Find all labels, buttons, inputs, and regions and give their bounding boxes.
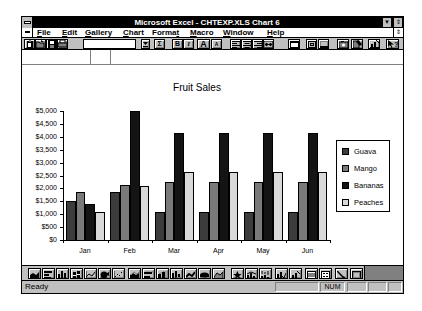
menu-edit[interactable]: Edit [62,28,77,37]
column-chart-button[interactable] [56,268,69,279]
radar-chart-button[interactable] [231,268,244,279]
print-button[interactable] [57,39,68,49]
menu-file[interactable]: File [37,28,51,37]
bar-mango-mar[interactable] [165,182,175,240]
chartwizard-button[interactable] [368,39,380,49]
line-3d-chart-button[interactable] [184,268,197,279]
paste-formats-button[interactable] [351,39,363,49]
chart-area[interactable]: Fruit Sales $0$500$1,000$1,500$2,000$2,5… [22,65,403,265]
center-across-button[interactable] [263,39,274,49]
legend[interactable]: GuavaMangoBananasPeaches [336,140,390,212]
pie-3d-chart-button[interactable] [198,268,211,279]
bar-peaches-may[interactable] [273,172,283,240]
stacked-column-chart-button[interactable] [70,268,83,279]
bar-bananas-feb[interactable] [130,111,140,240]
bar-mango-may[interactable] [254,182,264,240]
bar-peaches-jan[interactable] [95,212,105,240]
bar-bananas-mar[interactable] [174,133,184,240]
bar-bananas-jan[interactable] [85,204,95,240]
autoformat-button[interactable] [288,39,300,49]
bar-mango-jun[interactable] [298,182,308,240]
align-center-button[interactable] [241,39,252,49]
bottom-border-icon [320,41,328,48]
line-chart-button[interactable] [84,268,97,279]
paste-button[interactable] [24,39,35,49]
bar-peaches-mar[interactable] [184,172,194,240]
name-box[interactable] [22,50,90,64]
autosum-button[interactable]: Σ [154,39,165,49]
title-bar[interactable]: Microsoft Excel - CHTEXP.XLS Chart 6 ▼ ⇕ [22,17,403,28]
formula-bar [22,50,403,65]
bold-button[interactable]: B [172,39,183,49]
style-combo-input[interactable] [83,39,136,49]
volume-hlc-combo-button[interactable] [259,268,272,279]
minimize-button[interactable]: ▼ [382,17,392,28]
menu-window[interactable]: Window [223,28,254,37]
decrease-font-button[interactable]: A [211,39,222,49]
bar-bananas-may[interactable] [263,133,273,240]
bar-peaches-jun[interactable] [318,172,328,240]
save-button[interactable] [46,39,57,49]
arrow-button[interactable] [335,268,348,279]
pie-chart-button[interactable] [98,268,111,279]
increase-font-button[interactable]: A [197,39,210,49]
surface-3d-chart-button[interactable] [212,268,225,279]
system-menu-button[interactable] [22,17,33,28]
formula-input[interactable] [112,50,402,64]
legend-item-guava[interactable]: Guava [342,147,390,156]
column-3d-chart-button[interactable] [156,268,169,279]
bar-guava-mar[interactable] [155,212,165,240]
open-button[interactable] [35,39,46,49]
menu-gallery[interactable]: Gallery [85,28,112,37]
legend-label: Mango [354,164,377,173]
plot-area[interactable] [63,111,330,240]
bar-mango-feb[interactable] [120,185,130,240]
style-dropdown-button[interactable] [141,39,150,49]
bar-mango-jan[interactable] [76,192,86,240]
text-box-button[interactable] [350,268,363,279]
legend-item-mango[interactable]: Mango [342,164,390,173]
bar-guava-jan[interactable] [66,201,76,240]
bar-3d-chart-button[interactable] [142,268,155,279]
align-right-button[interactable] [252,39,263,49]
document-restore-button[interactable]: ⇕ [393,28,403,37]
area-chart-button[interactable] [28,268,41,279]
document-menu-icon [25,31,30,33]
menu-macro[interactable]: Macro [190,28,214,37]
bar-chart-button[interactable] [42,268,55,279]
preferred-chart-button[interactable] [275,268,288,279]
area-3d-chart-button[interactable] [128,268,141,279]
x-tick-label: Apr [197,247,241,255]
bar-peaches-feb[interactable] [140,186,150,240]
bar-guava-may[interactable] [244,212,254,240]
bar-guava-apr[interactable] [199,212,209,240]
help-button[interactable]: ? [386,39,399,49]
bar-bananas-jun[interactable] [308,133,318,240]
bar-guava-jun[interactable] [288,212,298,240]
bar-guava-feb[interactable] [110,192,120,240]
align-left-button[interactable] [230,39,241,49]
copy-picture-button[interactable] [337,39,349,49]
menu-help[interactable]: Help [267,28,284,37]
scatter-chart-button[interactable] [112,268,125,279]
gridlines-button[interactable] [305,268,318,279]
line-column-combo-button[interactable] [245,268,258,279]
menu-chart[interactable]: Chart [123,28,144,37]
italic-button[interactable]: I [183,39,194,49]
restore-icon: ⇕ [396,29,401,35]
folder-open-icon [36,40,45,48]
menu-format[interactable]: Format [152,28,179,37]
restore-button[interactable]: ⇕ [393,17,403,28]
legend-button[interactable] [319,268,332,279]
chartwizard-button[interactable] [289,268,302,279]
perspective-column-3d-chart-button[interactable] [170,268,183,279]
chart-title[interactable]: Fruit Sales [22,82,372,93]
bar-mango-apr[interactable] [209,182,219,240]
outline-border-button[interactable] [306,39,317,49]
legend-item-bananas[interactable]: Bananas [342,181,390,190]
document-control-menu-button[interactable] [22,28,33,37]
bar-bananas-apr[interactable] [219,133,229,240]
bottom-border-button[interactable] [318,39,329,49]
bar-peaches-apr[interactable] [229,172,239,240]
legend-item-peaches[interactable]: Peaches [342,198,390,207]
